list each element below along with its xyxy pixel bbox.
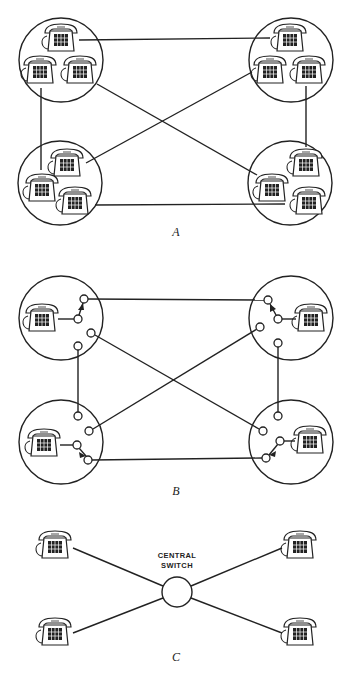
- telephone-icon: [36, 531, 71, 558]
- telephone-icon: [23, 174, 58, 201]
- panel-label-b: B: [172, 484, 180, 498]
- telephone-icon: [253, 174, 288, 201]
- telephone-icon: [291, 426, 326, 453]
- switch-nodes: [73, 295, 284, 464]
- telephone-icon: [271, 24, 306, 51]
- telephone-icon: [36, 618, 71, 645]
- panel-label-c: C: [172, 650, 181, 664]
- link-line: [95, 335, 259, 429]
- telephone-icon: [21, 56, 56, 83]
- central-switch-circle: [162, 577, 192, 607]
- telephone-icon: [292, 304, 327, 331]
- telephone-icon: [61, 56, 96, 83]
- link-line: [88, 299, 264, 300]
- phones-panel-b: [23, 304, 327, 456]
- telephone-network-diagram: CENTRAL SWITCH A B C: [0, 0, 352, 676]
- telephone-icon: [56, 187, 91, 214]
- link-line: [92, 458, 262, 460]
- link-line: [191, 598, 282, 633]
- link-line: [86, 72, 252, 163]
- phones-panel-a: [21, 24, 325, 214]
- telephone-icon: [290, 56, 325, 83]
- telephone-icon: [281, 618, 316, 645]
- arrow-icon: [78, 303, 84, 310]
- station-circle-bottom-left: [19, 400, 103, 484]
- telephone-icon: [287, 149, 322, 176]
- link-line: [95, 204, 285, 205]
- link-line: [73, 548, 163, 586]
- telephone-icon: [48, 149, 83, 176]
- link-line: [79, 38, 270, 40]
- panel-label-a: A: [171, 225, 180, 239]
- central-switch-label-line1: CENTRAL: [158, 551, 197, 560]
- telephone-icon: [251, 56, 286, 83]
- telephone-icon: [290, 187, 325, 214]
- link-line: [191, 548, 282, 586]
- telephone-icon: [42, 24, 77, 51]
- telephone-icon: [25, 429, 60, 456]
- link-line: [73, 598, 163, 633]
- central-switch-label-line2: SWITCH: [161, 561, 193, 570]
- panel-b: [19, 276, 333, 484]
- switch-arrowheads: [78, 303, 276, 458]
- link-line: [97, 84, 257, 175]
- telephone-icon: [23, 304, 58, 331]
- telephone-icon: [281, 531, 316, 558]
